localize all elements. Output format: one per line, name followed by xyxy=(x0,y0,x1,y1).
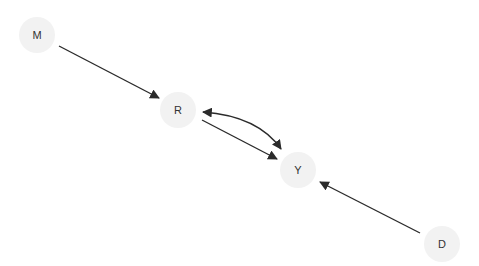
edge-r-to-y xyxy=(202,120,277,159)
node-label-r: R xyxy=(174,104,182,116)
edge-r-y-bidirected xyxy=(203,112,281,149)
node-label-m: M xyxy=(32,29,41,41)
node-m: M xyxy=(19,17,55,53)
edge-d-to-y xyxy=(320,182,420,233)
edge-m-to-r xyxy=(59,46,159,98)
dag-canvas: M R Y D xyxy=(0,0,479,266)
node-d: D xyxy=(424,226,460,262)
node-label-d: D xyxy=(438,238,446,250)
node-r: R xyxy=(160,92,196,128)
node-y: Y xyxy=(280,152,316,188)
node-label-y: Y xyxy=(294,164,302,176)
